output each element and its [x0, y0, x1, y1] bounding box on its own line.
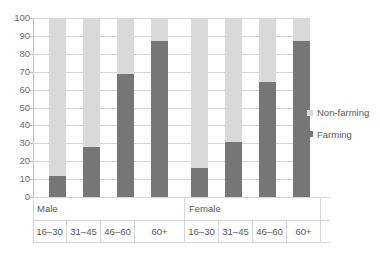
x-axis-age-row: 16–3031–4546–6060+16–3031–4546–6060+ — [33, 220, 330, 243]
bar-segment-farming — [83, 147, 100, 197]
y-axis-tick-label: 10 — [4, 174, 30, 184]
legend-item-label: Non-farming — [317, 108, 369, 118]
square-swatch-icon — [307, 131, 313, 137]
bar-segment-farming — [225, 142, 242, 197]
legend-item-label: Farming — [317, 130, 352, 140]
x-axis-age-label: 60+ — [135, 220, 185, 243]
y-axis-tick-mark — [30, 90, 33, 91]
x-axis-age-label: 31–45 — [219, 220, 253, 243]
stacked-bar — [259, 18, 276, 197]
square-swatch-icon — [307, 110, 313, 116]
y-axis-tick-mark — [30, 72, 33, 73]
y-axis-tick-mark — [30, 125, 33, 126]
y-axis-tick-label: 20 — [4, 156, 30, 166]
bar-segment-non-farming — [49, 18, 66, 197]
x-axis-age-label: 46–60 — [253, 220, 287, 243]
bar-segment-farming — [191, 168, 208, 197]
y-axis-tick-mark — [30, 179, 33, 180]
x-axis-gender-label: Male — [33, 197, 185, 220]
x-axis-gender-row: MaleFemale — [33, 197, 330, 220]
x-axis-age-label: 31–45 — [67, 220, 101, 243]
stacked-bar — [49, 18, 66, 197]
stacked-bar — [225, 18, 242, 197]
y-axis-tick-mark — [30, 18, 33, 19]
y-axis-tick-label: 100 — [4, 13, 30, 23]
x-axis-category-table: MaleFemale 16–3031–4546–6060+16–3031–454… — [33, 197, 330, 243]
y-axis-tick-mark — [30, 108, 33, 109]
y-axis-tick-label: 80 — [4, 49, 30, 59]
y-axis-tick-label: 50 — [4, 103, 30, 113]
stacked-bar — [83, 18, 100, 197]
y-axis-tick-label: 0 — [4, 192, 30, 202]
y-axis-tick-mark — [30, 143, 33, 144]
y-axis-tick-mark — [30, 161, 33, 162]
stacked-bar — [117, 18, 134, 197]
x-axis-gender-label: Female — [185, 197, 321, 220]
x-axis-age-label: 16–30 — [33, 220, 67, 243]
y-axis-labels: 1009080706050403020100 — [0, 0, 30, 255]
x-axis-age-label: 46–60 — [101, 220, 135, 243]
bar-segment-farming — [49, 176, 66, 197]
y-axis-tick-label: 70 — [4, 67, 30, 77]
y-axis-tick-mark — [30, 36, 33, 37]
y-axis-tick-mark — [30, 54, 33, 55]
legend-item: Farming — [307, 130, 380, 140]
y-axis-tick-label: 40 — [4, 120, 30, 130]
y-axis-tick-label: 60 — [4, 85, 30, 95]
stacked-bar — [151, 18, 168, 197]
chart-legend: Non-farmingFarming — [307, 108, 380, 151]
bar-segment-farming — [259, 82, 276, 197]
x-axis-age-label: 16–30 — [185, 220, 219, 243]
y-axis-tick-label: 30 — [4, 138, 30, 148]
plot-area — [33, 18, 297, 197]
stacked-bar — [191, 18, 208, 197]
bar-segment-farming — [117, 74, 134, 198]
legend-item: Non-farming — [307, 108, 380, 118]
bar-segment-farming — [151, 41, 168, 197]
y-axis-tick-label: 90 — [4, 31, 30, 41]
chart-figure: 1009080706050403020100 MaleFemale 16–303… — [0, 0, 380, 255]
x-axis-age-label: 60+ — [287, 220, 321, 243]
